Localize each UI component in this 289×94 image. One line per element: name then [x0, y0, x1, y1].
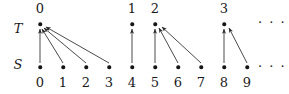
node-s-3: [107, 65, 111, 69]
node-label-t-0: 0: [31, 2, 49, 15]
node-s-2: [84, 65, 88, 69]
node-label-s-6: 6: [169, 76, 187, 89]
edge-s1-to-t0: [42, 29, 63, 63]
node-s-6: [176, 65, 180, 69]
node-s-0: [38, 65, 42, 69]
node-label-t-2: 2: [146, 2, 164, 15]
node-s-4: [130, 65, 134, 69]
edge-group: [40, 27, 247, 63]
node-t-0: [38, 22, 42, 26]
edge-s2-to-t0: [44, 28, 86, 63]
ellipsis-bottom-icon: · · ·: [258, 60, 286, 73]
ellipsis-top-icon: · · ·: [258, 16, 286, 29]
node-label-s-3: 3: [100, 76, 118, 89]
node-s-1: [61, 65, 65, 69]
node-t-1: [130, 22, 134, 26]
node-s-5: [153, 65, 157, 69]
node-label-t-3: 3: [215, 2, 233, 15]
node-label-s-0: 0: [31, 76, 49, 89]
node-s-8: [222, 65, 226, 69]
node-label-s-7: 7: [192, 76, 210, 89]
node-s-7: [199, 65, 203, 69]
node-label-s-2: 2: [77, 76, 95, 89]
node-s-9: [245, 65, 249, 69]
edge-s9-to-t3: [229, 28, 247, 63]
mapping-diagram: T S 0123 0123456789 · · · · · ·: [0, 0, 289, 94]
node-t-2: [153, 22, 157, 26]
node-label-t-1: 1: [123, 2, 141, 15]
node-label-s-5: 5: [146, 76, 164, 89]
node-t-3: [222, 22, 226, 26]
node-label-s-4: 4: [123, 76, 141, 89]
node-label-s-1: 1: [54, 76, 72, 89]
node-label-s-9: 9: [238, 76, 256, 89]
edge-s3-to-t0: [46, 27, 109, 63]
node-label-s-8: 8: [215, 76, 233, 89]
